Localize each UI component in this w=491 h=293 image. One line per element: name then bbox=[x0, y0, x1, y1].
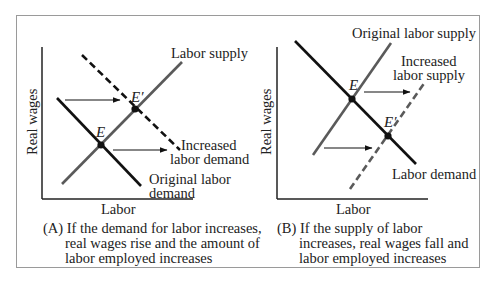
panel-b-demand-curve bbox=[295, 41, 416, 164]
panel-b-point-e-prime bbox=[384, 132, 391, 139]
panel-b-point-e bbox=[348, 95, 355, 102]
panel-b-label-e-prime: E′ bbox=[383, 114, 397, 130]
panel-a-supply-label: Labor supply bbox=[171, 45, 249, 61]
panel-b-caption-line-2: increases, real wages fall and bbox=[277, 236, 468, 251]
panel-a-caption-line-1: If the demand for labor increases, bbox=[67, 220, 262, 236]
panel-b-caption-line-3: labor employed increases bbox=[277, 251, 468, 266]
panel-b-x-axis-label: Labor bbox=[336, 201, 371, 217]
panel-a-caption-line-3: labor employed increases bbox=[43, 251, 262, 266]
panel-a-increased-demand-label-2: labor demand bbox=[170, 151, 250, 167]
panel-a-x-axis-label: Labor bbox=[101, 201, 136, 217]
panel-b-caption-line-1: If the supply of labor bbox=[300, 220, 422, 236]
panel-a-point-e-prime bbox=[131, 105, 138, 112]
panel-b-demand-label: Labor demand bbox=[392, 166, 477, 182]
panel-b-caption: (B) If the supply of labor increases, re… bbox=[277, 221, 468, 266]
panel-b-original-supply-label: Original labor supply bbox=[352, 25, 477, 41]
panel-a-y-axis-label: Real wages bbox=[24, 88, 40, 155]
panel-b: Real wages Labor E E′ Original labor sup… bbox=[258, 25, 477, 217]
panel-a-caption-line-2: real wages rise and the amount of bbox=[43, 236, 262, 251]
panel-b-label-e: E bbox=[348, 77, 358, 93]
panel-a: Real wages Labor E E′ Labor supply Incre… bbox=[24, 45, 250, 217]
panel-a-caption: (A) If the demand for labor increases, r… bbox=[43, 221, 262, 266]
panel-a-caption-prefix: (A) bbox=[43, 221, 63, 236]
panel-a-original-demand-curve bbox=[57, 98, 141, 186]
panel-a-label-e-prime: E′ bbox=[130, 89, 144, 105]
panel-a-original-demand-label-2: demand bbox=[149, 185, 196, 201]
panel-b-caption-prefix: (B) bbox=[277, 221, 296, 236]
panel-a-point-e bbox=[97, 141, 104, 148]
panel-b-y-axis-label: Real wages bbox=[258, 88, 274, 155]
panel-a-label-e: E bbox=[95, 124, 105, 140]
panel-b-increased-supply-label-2: labor supply bbox=[393, 67, 466, 83]
